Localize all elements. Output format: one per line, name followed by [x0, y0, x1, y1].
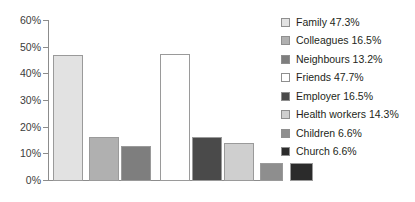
legend-swatch-icon [281, 129, 290, 138]
legend-item: Family 47.3% [281, 13, 415, 32]
legend-swatch-icon [281, 18, 290, 27]
bar-children [260, 163, 283, 181]
bar-church [290, 163, 313, 181]
legend-swatch-icon [281, 36, 290, 45]
legend-item-label: Church 6.6% [296, 146, 357, 157]
bar-friends [160, 54, 190, 181]
bar-employer [192, 137, 222, 181]
y-tick-label: 20% [3, 122, 41, 132]
legend-item: Church 6.6% [281, 143, 415, 162]
legend-item-label: Neighbours 13.2% [296, 54, 382, 65]
legend-item-label: Colleagues 16.5% [296, 35, 381, 46]
legend-item: Neighbours 13.2% [281, 50, 415, 69]
legend-swatch-icon [281, 147, 290, 156]
y-axis-tick [43, 127, 49, 128]
legend-item-label: Children 6.6% [296, 128, 362, 139]
y-axis-tick-labels: 60%50%40%30%20%10%0% [0, 0, 41, 202]
y-axis-tick [43, 20, 49, 21]
legend-swatch-icon [281, 55, 290, 64]
bar-colleagues [89, 137, 119, 181]
legend-item: Health workers 14.3% [281, 106, 415, 125]
y-axis-tick [43, 100, 49, 101]
bars-layer [48, 20, 276, 181]
legend-swatch-icon [281, 92, 290, 101]
legend-item-label: Family 47.3% [296, 17, 360, 28]
bar-health-workers [224, 143, 254, 181]
legend-item: Colleagues 16.5% [281, 32, 415, 51]
y-axis-tick [43, 180, 49, 181]
y-tick-label: 10% [3, 148, 41, 158]
legend-item-label: Employer 16.5% [296, 91, 373, 102]
legend-item-label: Health workers 14.3% [296, 109, 399, 120]
y-axis-tick [43, 47, 49, 48]
legend-swatch-icon [281, 73, 290, 82]
bar-family [53, 55, 83, 181]
legend-item: Employer 16.5% [281, 87, 415, 106]
legend-item: Friends 47.7% [281, 69, 415, 88]
y-tick-label: 30% [3, 95, 41, 105]
y-tick-label: 60% [3, 15, 41, 25]
y-axis-tick [43, 153, 49, 154]
y-tick-label: 50% [3, 42, 41, 52]
legend-item-label: Friends 47.7% [296, 72, 364, 83]
bar-chart: 60%50%40%30%20%10%0% Family 47.3%Colleag… [0, 0, 415, 202]
y-tick-label: 40% [3, 68, 41, 78]
y-tick-label: 0% [3, 175, 41, 185]
bar-neighbours [121, 146, 151, 181]
y-axis-tick [43, 73, 49, 74]
plot-area: 60%50%40%30%20%10%0% [0, 0, 285, 202]
legend-swatch-icon [281, 110, 290, 119]
legend-item: Children 6.6% [281, 124, 415, 143]
legend: Family 47.3%Colleagues 16.5%Neighbours 1… [281, 13, 415, 161]
